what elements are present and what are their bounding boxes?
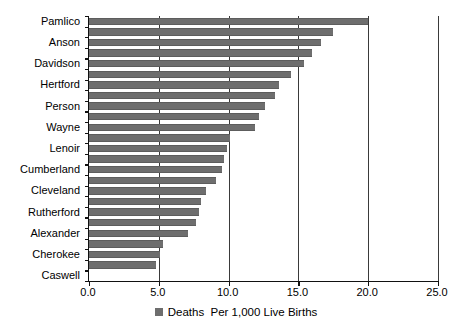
y-axis-tick <box>85 58 89 59</box>
bar-row <box>89 207 438 218</box>
bar-row <box>89 37 438 48</box>
bar <box>89 71 291 78</box>
y-axis-tick <box>85 154 89 155</box>
bar <box>89 145 227 152</box>
y-axis-label: Rutherford <box>28 207 80 218</box>
y-axis-label: Alexander <box>30 228 80 239</box>
bar-series <box>89 16 438 281</box>
y-axis-tick <box>85 16 89 17</box>
y-axis-tick <box>85 122 89 123</box>
bar <box>89 187 206 194</box>
x-axis-tick-label: 15.0 <box>287 286 308 298</box>
y-axis-tick <box>85 186 89 187</box>
bar-row <box>89 260 438 271</box>
y-axis-tick <box>85 228 89 229</box>
y-axis-tick <box>85 270 89 271</box>
y-axis-tick <box>85 133 89 134</box>
bar-row <box>89 175 438 186</box>
bar-row <box>89 48 438 59</box>
bar-row <box>89 154 438 165</box>
bar <box>89 177 216 184</box>
bar-row <box>89 196 438 207</box>
x-axis-tick-label: 20.0 <box>356 286 377 298</box>
bar-row <box>89 27 438 38</box>
bar-row <box>89 111 438 122</box>
bar <box>89 155 224 162</box>
bar-row <box>89 58 438 69</box>
bar <box>89 28 333 35</box>
bar <box>89 198 201 205</box>
bar <box>89 261 156 268</box>
bar <box>89 251 160 258</box>
y-axis-label: Person <box>45 101 80 112</box>
bar <box>89 18 368 25</box>
bar <box>89 60 304 67</box>
y-axis-tick <box>85 80 89 81</box>
y-axis-label: Cherokee <box>32 249 80 260</box>
y-axis-label: Pamlico <box>41 16 80 27</box>
y-axis-tick <box>85 239 89 240</box>
y-axis-tick <box>85 101 89 102</box>
bar-row <box>89 133 438 144</box>
plot-area <box>88 16 438 282</box>
bar <box>89 124 255 131</box>
y-axis-label: Wayne <box>46 122 80 133</box>
bar <box>89 208 199 215</box>
bar-row <box>89 228 438 239</box>
y-axis-tick <box>85 48 89 49</box>
bar-row <box>89 16 438 27</box>
chart-legend: Deaths Per 1,000 Live Births <box>0 303 472 321</box>
y-axis-label: Cumberland <box>20 164 80 175</box>
y-axis-tick <box>85 90 89 91</box>
bar-row <box>89 80 438 91</box>
bar <box>89 49 312 56</box>
x-axis-tick-label: 25.0 <box>426 286 447 298</box>
y-axis-label: Davidson <box>34 58 80 69</box>
y-axis-tick <box>85 111 89 112</box>
bar-row <box>89 90 438 101</box>
y-axis-tick <box>85 27 89 28</box>
bar <box>89 230 188 237</box>
bar <box>89 113 259 120</box>
y-axis-label: Cleveland <box>31 185 80 196</box>
bar <box>89 39 321 46</box>
y-axis-tick <box>85 69 89 70</box>
y-axis-tick <box>85 260 89 261</box>
bar-row <box>89 164 438 175</box>
bar <box>89 102 265 109</box>
y-axis-tick <box>85 164 89 165</box>
bar-row <box>89 122 438 133</box>
y-axis-tick <box>85 37 89 38</box>
legend-label: Deaths Per 1,000 Live Births <box>168 306 318 318</box>
y-axis-labels: PamlicoAnsonDavidsonHertfordPersonWayneL… <box>0 16 84 281</box>
bar <box>89 166 222 173</box>
legend-swatch-icon <box>155 308 163 316</box>
bar-chart: PamlicoAnsonDavidsonHertfordPersonWayneL… <box>0 0 472 331</box>
bar-row <box>89 270 438 281</box>
bar <box>89 92 275 99</box>
bar-row <box>89 143 438 154</box>
gridline <box>438 16 439 281</box>
y-axis-tick <box>85 175 89 176</box>
bar-row <box>89 249 438 260</box>
bar-row <box>89 239 438 250</box>
y-axis-tick <box>85 196 89 197</box>
bar-row <box>89 69 438 80</box>
y-axis-tick <box>85 143 89 144</box>
x-axis-tick-label: 5.0 <box>150 286 165 298</box>
bar <box>89 219 196 226</box>
bar <box>89 134 230 141</box>
y-axis-tick <box>85 207 89 208</box>
bar <box>89 81 279 88</box>
bar-row <box>89 186 438 197</box>
x-axis-tick-labels: 0.05.010.015.020.025.0 <box>0 286 472 302</box>
y-axis-label: Caswell <box>41 270 80 281</box>
y-axis-label: Lenoir <box>49 143 80 154</box>
x-axis-tick-label: 10.0 <box>217 286 238 298</box>
bar-row <box>89 217 438 228</box>
y-axis-label: Hertford <box>40 79 80 90</box>
x-axis-tick-label: 0.0 <box>80 286 95 298</box>
bar-row <box>89 101 438 112</box>
y-axis-tick <box>85 249 89 250</box>
bar <box>89 240 163 247</box>
